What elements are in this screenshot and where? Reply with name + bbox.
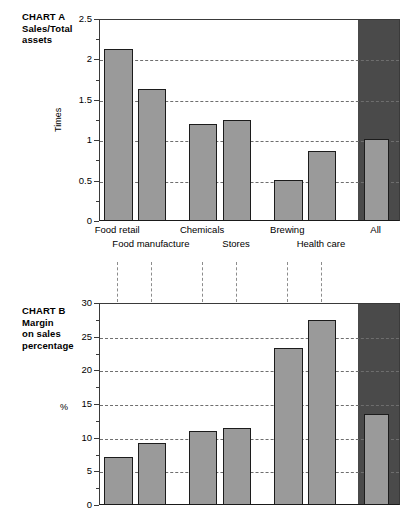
- gridline: [100, 60, 399, 61]
- y-axis-minor-tick: [96, 39, 99, 40]
- chart-a-block: CHART A Sales/Total assets Times 00.511.…: [0, 0, 417, 263]
- chart-a-x-category-label: Health care: [261, 238, 381, 249]
- y-axis-minor-tick: [96, 421, 99, 422]
- bar: [223, 120, 252, 221]
- y-axis-major-tick: [94, 303, 99, 304]
- chart-a-y-axis-label: Times: [53, 108, 63, 132]
- bar: [104, 457, 133, 505]
- bar: [189, 431, 218, 505]
- y-axis-major-tick: [94, 59, 99, 60]
- y-axis-minor-tick: [96, 160, 99, 161]
- y-axis-tick-label: 25: [51, 331, 92, 342]
- y-axis-tick-label: 0.5: [51, 175, 92, 186]
- chart-b-title: CHART B Margin on sales percentage: [22, 305, 102, 351]
- bar: [364, 139, 389, 221]
- gridline: [100, 338, 399, 339]
- y-axis-major-tick: [94, 404, 99, 405]
- y-axis-major-tick: [94, 19, 99, 20]
- y-axis-tick-label: 20: [51, 364, 92, 375]
- y-axis-tick-label: 30: [51, 297, 92, 308]
- chart-b-plot-area: [99, 303, 400, 505]
- y-axis-tick-label: 5: [51, 465, 92, 476]
- figure-root: CHART A Sales/Total assets Times 00.511.…: [0, 0, 417, 526]
- gridline: [100, 405, 399, 406]
- bar: [138, 443, 167, 505]
- bar: [308, 151, 337, 221]
- y-axis-tick-label: 1: [51, 134, 92, 145]
- y-axis-tick-label: 0: [51, 499, 92, 510]
- y-axis-tick-label: 2.5: [51, 13, 92, 24]
- bar: [189, 124, 218, 221]
- y-axis-tick-label: 10: [51, 432, 92, 443]
- bar: [223, 428, 252, 505]
- bar: [274, 180, 303, 221]
- y-axis-major-tick: [94, 181, 99, 182]
- y-axis-minor-tick: [96, 120, 99, 121]
- bar: [104, 49, 133, 221]
- y-axis-major-tick: [94, 505, 99, 506]
- y-axis-minor-tick: [96, 320, 99, 321]
- bar: [274, 348, 303, 505]
- y-axis-major-tick: [94, 100, 99, 101]
- gridline: [100, 371, 399, 372]
- y-axis-tick-label: 2: [51, 53, 92, 64]
- y-axis-minor-tick: [96, 488, 99, 489]
- bar: [138, 89, 167, 221]
- y-axis-minor-tick: [96, 387, 99, 388]
- y-axis-major-tick: [94, 370, 99, 371]
- y-axis-major-tick: [94, 221, 99, 222]
- y-axis-minor-tick: [96, 201, 99, 202]
- y-axis-major-tick: [94, 337, 99, 338]
- y-axis-minor-tick: [96, 455, 99, 456]
- bar: [364, 414, 389, 505]
- y-axis-tick-label: 15: [51, 398, 92, 409]
- y-axis-major-tick: [94, 471, 99, 472]
- y-axis-major-tick: [94, 438, 99, 439]
- bar: [308, 320, 337, 505]
- y-axis-minor-tick: [96, 80, 99, 81]
- y-axis-minor-tick: [96, 354, 99, 355]
- y-axis-tick-label: 1.5: [51, 94, 92, 105]
- chart-b-block: CHART B Margin on sales percentage % 051…: [0, 263, 417, 526]
- y-axis-major-tick: [94, 140, 99, 141]
- chart-a-plot-area: [99, 19, 400, 221]
- chart-a-x-category-label: All: [316, 224, 417, 235]
